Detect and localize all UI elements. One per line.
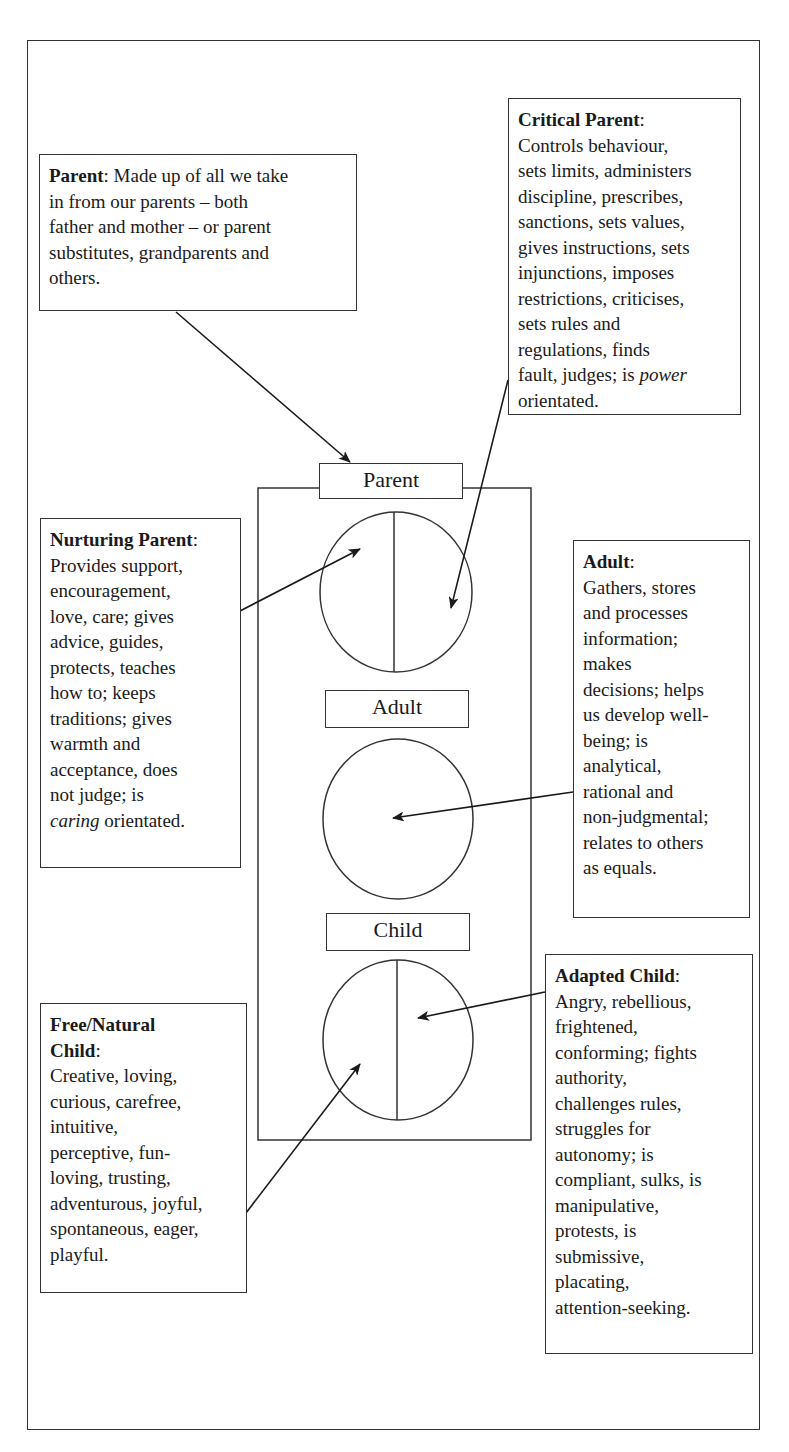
- text-line: decisions; helps: [583, 677, 741, 703]
- text-line: frightened,: [555, 1014, 744, 1040]
- text-line: authority,: [555, 1065, 744, 1091]
- nurturing-parent-heading: Nurturing Parent: [50, 529, 193, 550]
- text-line: adventurous, joyful,: [50, 1191, 238, 1217]
- critical-parent-box: Critical Parent: Controls behaviour, set…: [508, 98, 741, 415]
- text-line: warmth and: [50, 731, 232, 757]
- adapted-child-heading: Adapted Child: [555, 965, 675, 986]
- text-line: Controls behaviour,: [518, 133, 732, 159]
- text-line: playful.: [50, 1242, 238, 1268]
- text-line: spontaneous, eager,: [50, 1216, 238, 1242]
- child-circle: [323, 960, 473, 1120]
- text-line: orientated.: [518, 388, 732, 414]
- text-line: compliant, sulks, is: [555, 1167, 744, 1193]
- text-line: and processes: [583, 600, 741, 626]
- text-line: intuitive,: [50, 1114, 238, 1140]
- adult-label: Adult: [325, 690, 469, 728]
- free-child-heading-line1: Free/Natural: [50, 1014, 155, 1035]
- child-label: Child: [326, 913, 470, 951]
- text-line: sets rules and: [518, 311, 732, 337]
- text-line: rational and: [583, 779, 741, 805]
- emphasis-caring: caring: [50, 810, 100, 831]
- text-line: how to; keeps: [50, 680, 232, 706]
- text-line: traditions; gives: [50, 706, 232, 732]
- text-line: placating,: [555, 1269, 744, 1295]
- text-line: struggles for: [555, 1116, 744, 1142]
- text-line: non-judgmental;: [583, 804, 741, 830]
- text-line: loving, trusting,: [50, 1165, 238, 1191]
- text-line: manipulative,: [555, 1193, 744, 1219]
- text-line: restrictions, criticises,: [518, 286, 732, 312]
- text-line: sets limits, administers: [518, 158, 732, 184]
- text-line: conforming; fights: [555, 1040, 744, 1066]
- text-line: encouragement,: [50, 578, 232, 604]
- text-line: analytical,: [583, 753, 741, 779]
- text-line: fault, judges; is power: [518, 362, 732, 388]
- text-line: challenges rules,: [555, 1091, 744, 1117]
- text-line: sanctions, sets values,: [518, 209, 732, 235]
- parent-description-box: Parent: Made up of all we take in from o…: [39, 154, 357, 311]
- text-line: Creative, loving,: [50, 1063, 238, 1089]
- text-line: love, care; gives: [50, 604, 232, 630]
- arrow-parent-to-label: [176, 312, 350, 462]
- adult-heading: Adult: [583, 551, 629, 572]
- parent-heading: Parent: [49, 165, 104, 186]
- adapted-child-box: Adapted Child: Angry, rebellious, fright…: [545, 954, 753, 1354]
- text-line: not judge; is: [50, 782, 232, 808]
- critical-parent-heading: Critical Parent: [518, 109, 640, 130]
- text-line: injunctions, imposes: [518, 260, 732, 286]
- text-line: substitutes, grandparents and: [49, 240, 348, 266]
- parent-circle: [320, 512, 472, 672]
- text-line: us develop well-: [583, 702, 741, 728]
- arrow-free-child: [246, 1064, 360, 1213]
- text-line: in from our parents – both: [49, 189, 348, 215]
- free-child-box: Free/Natural Child: Creative, loving, cu…: [40, 1003, 247, 1293]
- text-line: gives instructions, sets: [518, 235, 732, 261]
- text-line: makes: [583, 651, 741, 677]
- text-line: as equals.: [583, 855, 741, 881]
- text-line: protests, is: [555, 1218, 744, 1244]
- parent-label: Parent: [319, 463, 463, 499]
- text-line: Gathers, stores: [583, 575, 741, 601]
- text-line: submissive,: [555, 1244, 744, 1270]
- text-line: attention-seeking.: [555, 1295, 744, 1321]
- text-line: being; is: [583, 728, 741, 754]
- nurturing-parent-box: Nurturing Parent: Provides support, enco…: [40, 518, 241, 868]
- text-line: Angry, rebellious,: [555, 989, 744, 1015]
- text-line: protects, teaches: [50, 655, 232, 681]
- text-line: information;: [583, 626, 741, 652]
- text-line: perceptive, fun-: [50, 1140, 238, 1166]
- text-line: others.: [49, 265, 348, 291]
- parent-first-line: Parent: Made up of all we take: [49, 163, 348, 189]
- emphasis-power: power: [639, 364, 687, 385]
- text-line: relates to others: [583, 830, 741, 856]
- text-line: father and mother – or parent: [49, 214, 348, 240]
- adult-box: Adult: Gathers, stores and processes inf…: [573, 540, 750, 918]
- text-line: autonomy; is: [555, 1142, 744, 1168]
- free-child-heading-line2: Child: [50, 1040, 95, 1061]
- text-line: curious, carefree,: [50, 1089, 238, 1115]
- text-line: caring orientated.: [50, 808, 232, 834]
- text-line: Provides support,: [50, 553, 232, 579]
- text-line: regulations, finds: [518, 337, 732, 363]
- text-line: advice, guides,: [50, 629, 232, 655]
- text-line: acceptance, does: [50, 757, 232, 783]
- text-line: discipline, prescribes,: [518, 184, 732, 210]
- adult-circle: [323, 739, 473, 899]
